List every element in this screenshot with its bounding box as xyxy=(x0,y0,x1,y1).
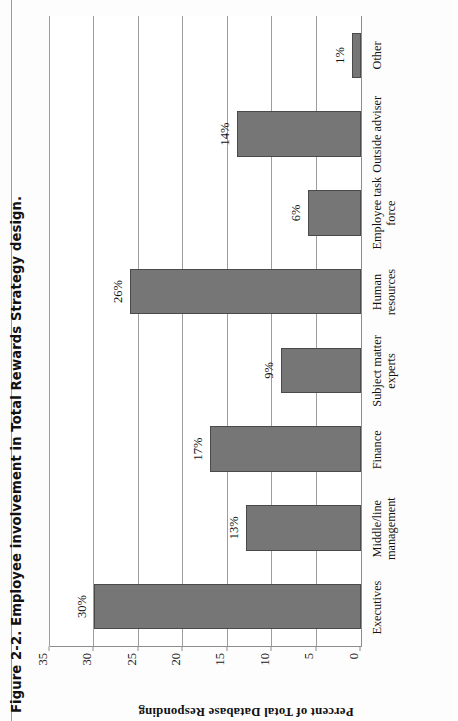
category-label-line: management xyxy=(384,490,398,567)
category-axis-labels: ExecutivesMiddle/linemanagementFinanceSu… xyxy=(366,16,418,647)
category-label: Finance xyxy=(366,410,418,489)
bar xyxy=(210,426,361,472)
bar-slot: 6% xyxy=(50,174,361,253)
bar-value-label: 6% xyxy=(289,205,304,222)
bar xyxy=(94,584,361,630)
category-label-line: Outside adviser xyxy=(370,96,384,173)
value-axis-tick-mark xyxy=(271,646,272,651)
bar-slot: 13% xyxy=(50,489,361,568)
bar-slot: 26% xyxy=(50,252,361,331)
value-axis-tick-label: 35 xyxy=(35,653,50,666)
figure-caption: Figure 2-2. Employee involvement in Tota… xyxy=(0,0,34,721)
value-axis-tick-label: 30 xyxy=(80,653,95,666)
value-axis-tick-mark xyxy=(93,646,94,651)
value-axis-tick-label: 5 xyxy=(302,653,317,659)
category-label: Humanresources xyxy=(366,253,418,332)
category-label: Employee taskforce xyxy=(366,174,418,253)
bar-value-label: 17% xyxy=(191,438,206,461)
bar-value-label: 30% xyxy=(75,595,90,618)
bar-slot: 17% xyxy=(50,410,361,489)
category-label-line: Middle/line xyxy=(370,490,384,567)
value-axis-tick-label: 15 xyxy=(213,653,228,666)
value-axis-tick-mark xyxy=(182,646,183,651)
category-label-line: experts xyxy=(384,333,398,410)
category-label: Subject matterexperts xyxy=(366,332,418,411)
value-axis-tick-mark xyxy=(360,646,361,651)
value-axis-tick-mark xyxy=(315,646,316,651)
value-axis-tick-mark xyxy=(49,646,50,651)
category-label-line: force xyxy=(384,175,398,252)
bar-slot: 30% xyxy=(50,567,361,646)
bar-slot: 1% xyxy=(50,16,361,95)
value-axis-tick-label: 10 xyxy=(257,653,272,666)
category-label-line: Employee task xyxy=(370,175,384,252)
value-axis-tick-label: 25 xyxy=(124,653,139,666)
category-label: Outside adviser xyxy=(366,95,418,174)
bar-value-label: 13% xyxy=(227,516,242,539)
bar-value-label: 1% xyxy=(333,47,348,64)
chart-rotation-container: Percent of Total Database Responding 051… xyxy=(34,0,458,721)
bar xyxy=(237,111,361,157)
category-label: Other xyxy=(366,16,418,95)
figure-caption-container: Figure 2-2. Employee involvement in Tota… xyxy=(0,0,34,721)
category-label-line: resources xyxy=(384,254,398,331)
bar-chart: Percent of Total Database Responding 051… xyxy=(34,0,458,721)
value-axis-tick-mark xyxy=(226,646,227,651)
figure-page: Figure 2-2. Employee involvement in Tota… xyxy=(0,0,458,721)
bar xyxy=(281,348,361,394)
category-label-line: Executives xyxy=(370,569,384,646)
category-label-line: Finance xyxy=(370,411,384,488)
bar-slot: 14% xyxy=(50,95,361,174)
value-axis-tick-mark xyxy=(137,646,138,651)
bar xyxy=(352,33,361,79)
bar xyxy=(246,505,362,551)
category-label-line: Subject matter xyxy=(370,333,384,410)
bar-value-label: 14% xyxy=(218,123,233,146)
value-axis-tick-label: 20 xyxy=(169,653,184,666)
plot-area: 05101520253035 30%13%17%9%26%6%14%1% xyxy=(50,16,362,647)
bar xyxy=(308,190,361,236)
bars-group: 30%13%17%9%26%6%14%1% xyxy=(50,16,361,646)
category-label-line: Other xyxy=(370,17,384,94)
category-label: Executives xyxy=(366,568,418,647)
value-axis-title: Percent of Total Database Responding xyxy=(138,704,353,719)
category-label-line: Human xyxy=(370,254,384,331)
category-label: Middle/linemanagement xyxy=(366,489,418,568)
bar-slot: 9% xyxy=(50,331,361,410)
bar-value-label: 9% xyxy=(262,362,277,379)
bar-value-label: 26% xyxy=(111,280,126,303)
bar xyxy=(130,269,361,315)
value-axis-tick-label: 0 xyxy=(346,653,361,659)
